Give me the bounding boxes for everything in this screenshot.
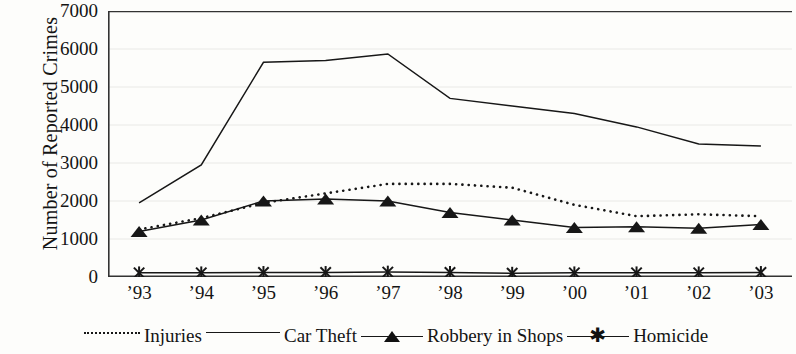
marker-star — [694, 266, 704, 277]
series-line-injuries — [139, 184, 761, 230]
legend-item: Robbery in Shops — [361, 325, 567, 347]
y-axis-tick-labels: 01000200030004000500060007000 — [24, 0, 98, 290]
legend-item: Car Theft — [206, 325, 361, 347]
legend-swatch-dotted-line-icon — [84, 332, 140, 348]
legend-swatch-star-marker-icon: ✱ — [567, 329, 629, 343]
legend-label: Homicide — [629, 325, 712, 347]
marker-star — [134, 266, 144, 277]
x-axis-tick-label: ’01 — [607, 282, 667, 304]
x-axis-tick-labels: ’93’94’95’96’97’98’99’00’01’02’03 — [108, 282, 792, 308]
y-axis-tick-label: 0 — [26, 266, 98, 288]
marker-star — [569, 266, 579, 277]
y-axis-tick-label: 3000 — [26, 152, 98, 174]
y-axis-tick-label: 7000 — [26, 0, 98, 22]
legend-item: Injuries — [84, 325, 206, 348]
series-line-car-theft — [139, 54, 761, 203]
legend-item: ✱Homicide — [567, 325, 712, 347]
x-axis-tick-label: ’99 — [482, 282, 542, 304]
marker-star — [320, 266, 330, 277]
plot-area — [108, 11, 792, 277]
marker-star — [196, 266, 206, 277]
marker-star — [445, 266, 455, 277]
marker-star — [631, 266, 641, 277]
marker-star — [507, 267, 517, 277]
y-axis-tick-label: 1000 — [26, 228, 98, 250]
x-axis-tick-label: ’95 — [233, 282, 293, 304]
x-axis-tick-label: ’94 — [171, 282, 231, 304]
x-axis-tick-label: ’96 — [296, 282, 356, 304]
legend-label: Robbery in Shops — [423, 325, 567, 347]
x-axis-tick-label: ’00 — [544, 282, 604, 304]
x-axis-tick-label: ’98 — [420, 282, 480, 304]
legend-label: Car Theft — [280, 325, 361, 347]
y-axis-tick-label: 4000 — [26, 114, 98, 136]
x-axis-tick-label: ’03 — [731, 282, 791, 304]
legend-swatch-solid-line-icon — [206, 332, 280, 347]
legend-label: Injuries — [140, 325, 206, 347]
crime-statistics-line-chart: Number of Reported Crimes 01000200030004… — [0, 0, 796, 354]
marker-star — [756, 266, 766, 277]
x-axis-tick-label: ’02 — [669, 282, 729, 304]
marker-star — [258, 266, 268, 277]
x-axis-tick-label: ’93 — [109, 282, 169, 304]
y-axis-tick-label: 2000 — [26, 190, 98, 212]
chart-legend: InjuriesCar TheftRobbery in Shops✱Homici… — [0, 320, 796, 352]
legend-swatch-triangle-marker-icon — [361, 329, 423, 343]
y-axis-tick-label: 6000 — [26, 38, 98, 60]
marker-star — [383, 266, 393, 277]
y-axis-tick-label: 5000 — [26, 76, 98, 98]
x-axis-tick-label: ’97 — [358, 282, 418, 304]
